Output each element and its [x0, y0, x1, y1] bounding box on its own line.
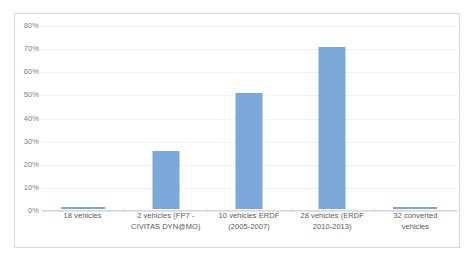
bar[interactable] [393, 207, 437, 210]
y-axis: 0%10%20%30%40%50%60%70%80% [15, 14, 41, 247]
x-axis-category-label: 10 vehicles ERDF(2005-2007) [207, 211, 290, 232]
x-axis-category-line: 28 vehicles (ERDF [291, 211, 374, 222]
x-axis-tick-mark [207, 209, 208, 212]
y-axis-tick-label: 60% [24, 68, 39, 76]
x-axis-category-line: 10 vehicles ERDF [207, 211, 290, 222]
x-axis-category-line: 2 vehicles (FP7 - [124, 211, 207, 222]
y-axis-tick-label: 0% [28, 207, 39, 215]
y-axis-tick-label: 30% [24, 138, 39, 146]
x-axis-tick-mark [124, 209, 125, 212]
y-axis-tick-label: 40% [24, 115, 39, 123]
x-axis-category-line: (2005-2007) [207, 222, 290, 233]
x-axis-tick-mark [374, 209, 375, 212]
y-axis-tick-label: 50% [24, 91, 39, 99]
x-axis-tick-mark [291, 209, 292, 212]
x-axis-category-line: 18 vehicles [41, 211, 124, 222]
plot-wrapper: 0%10%20%30%40%50%60%70%80% 18 vehicles2 … [15, 14, 459, 247]
x-axis-category-label: 18 vehicles [41, 211, 124, 222]
chart-container: 0%10%20%30%40%50%60%70%80% 18 vehicles2 … [14, 13, 460, 248]
y-axis-tick-label: 70% [24, 45, 39, 53]
bar[interactable] [61, 207, 105, 210]
bar[interactable] [152, 151, 179, 209]
y-axis-tick-label: 20% [24, 161, 39, 169]
x-axis-category-line: CIVITAS DYN@MO) [124, 222, 207, 233]
y-axis-tick-label: 80% [24, 22, 39, 30]
x-axis-category-label: 2 vehicles (FP7 -CIVITAS DYN@MO) [124, 211, 207, 232]
x-axis-category-line: 32 converted [374, 211, 457, 222]
x-axis-category-line: vehicles [374, 222, 457, 233]
x-axis-category-line: 2010-2013) [291, 222, 374, 233]
x-axis-category-label: 32 convertedvehicles [374, 211, 457, 232]
x-axis-category-label: 28 vehicles (ERDF2010-2013) [291, 211, 374, 232]
y-axis-tick-label: 10% [24, 184, 39, 192]
bar[interactable] [235, 93, 262, 209]
x-axis-labels: 18 vehicles2 vehicles (FP7 -CIVITAS DYN@… [41, 211, 457, 245]
bar[interactable] [319, 47, 346, 209]
